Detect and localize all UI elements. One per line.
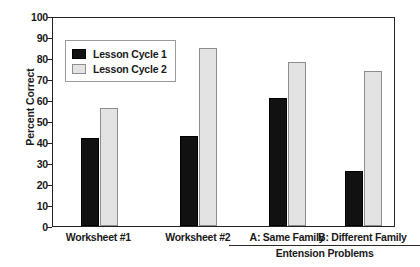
- x-axis-labels: Worksheet #1Worksheet #2A: Same FamilyB:…: [52, 231, 395, 245]
- legend-swatch: [72, 49, 86, 59]
- legend: Lesson Cycle 1Lesson Cycle 2: [65, 40, 176, 82]
- y-axis-ticks: 1009080706050403020100: [0, 0, 48, 267]
- x-tick-label: B: Different Family: [302, 231, 420, 244]
- bar: [100, 108, 118, 226]
- y-tick-label: 50: [2, 117, 48, 127]
- group-title: Entension Problems: [229, 247, 420, 260]
- bar: [81, 138, 99, 226]
- y-tick-label: 30: [2, 159, 48, 169]
- y-tick-label: 100: [2, 12, 48, 22]
- y-tick-label: 90: [2, 33, 48, 43]
- bar: [269, 98, 287, 226]
- legend-item: Lesson Cycle 1: [72, 46, 167, 61]
- y-tick-label: 20: [2, 180, 48, 190]
- group-bracket-line: [229, 245, 420, 246]
- bar: [288, 62, 306, 226]
- y-tick-label: 80: [2, 54, 48, 64]
- y-tick-label: 60: [2, 96, 48, 106]
- legend-swatch: [72, 64, 86, 74]
- bar-chart: Percent Correct 1009080706050403020100 L…: [0, 0, 420, 267]
- legend-item: Lesson Cycle 2: [72, 61, 167, 76]
- bar: [199, 48, 217, 227]
- bar: [364, 71, 382, 226]
- bar: [180, 136, 198, 226]
- y-tick-label: 10: [2, 201, 48, 211]
- y-tick-label: 40: [2, 138, 48, 148]
- legend-label: Lesson Cycle 1: [93, 48, 167, 60]
- y-tick-label: 70: [2, 75, 48, 85]
- legend-label: Lesson Cycle 2: [93, 63, 167, 75]
- y-tick-mark: [47, 227, 52, 228]
- bar: [345, 171, 363, 226]
